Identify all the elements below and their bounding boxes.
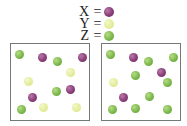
green-particle-icon	[15, 50, 24, 59]
purple-sphere-icon	[104, 7, 114, 17]
yellow-particle-icon	[24, 77, 33, 86]
legend-row-z: Z =	[70, 30, 114, 42]
yellow-sphere-icon	[104, 19, 114, 29]
green-particle-icon	[52, 87, 61, 96]
green-particle-icon	[108, 105, 117, 114]
yellow-particle-icon	[39, 103, 48, 112]
yellow-particle-icon	[66, 68, 75, 77]
purple-particle-icon	[66, 85, 75, 94]
green-particle-icon	[145, 92, 154, 101]
purple-particle-icon	[129, 53, 138, 62]
green-particle-icon	[131, 71, 140, 80]
purple-particle-icon	[78, 53, 87, 62]
green-particle-icon	[131, 104, 140, 113]
purple-particle-icon	[38, 53, 47, 62]
green-particle-icon	[106, 50, 115, 59]
legend-label-z: Z =	[70, 30, 102, 42]
green-particle-icon	[163, 105, 172, 114]
yellow-particle-icon	[72, 103, 81, 112]
green-sphere-icon	[104, 31, 114, 41]
green-particle-icon	[53, 57, 62, 66]
green-particle-icon	[144, 57, 153, 66]
green-particle-icon	[17, 105, 26, 114]
yellow-particle-icon	[109, 78, 118, 87]
purple-particle-icon	[119, 93, 128, 102]
purple-particle-icon	[28, 93, 37, 102]
green-particle-icon	[169, 53, 178, 62]
green-particle-icon	[163, 78, 172, 87]
purple-particle-icon	[157, 68, 166, 77]
